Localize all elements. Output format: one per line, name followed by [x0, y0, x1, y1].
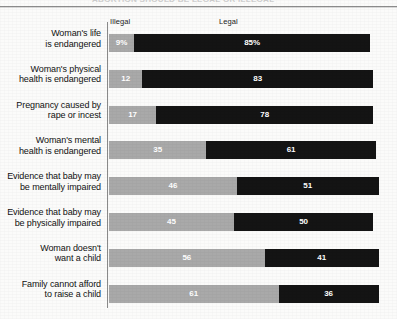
bar-row: Woman's mentalhealth is endangered3561 [0, 135, 397, 165]
stacked-bar: 6136 [109, 285, 379, 303]
stacked-bar: 4550 [109, 213, 373, 231]
category-label-line1: Woman's physical [0, 64, 101, 75]
bar-segment-legal: 83 [142, 70, 373, 88]
bar-row: Woman's lifeis endangered9%85% [0, 28, 397, 58]
category-label: Woman doesn'twant a child [0, 243, 101, 264]
stacked-bar: 9%85% [109, 34, 370, 52]
category-label-line2: is endangered [0, 39, 101, 50]
legend-label-illegal: Illegal [110, 17, 130, 26]
category-label: Woman's lifeis endangered [0, 28, 101, 49]
stacked-bar: 3561 [109, 141, 376, 159]
category-label-line2: to raise a child [0, 289, 101, 300]
bar-row: Evidence that baby maybe mentally impair… [0, 171, 397, 201]
category-label-line1: Woman doesn't [0, 243, 101, 254]
bar-segment-legal: 85% [134, 34, 370, 52]
bar-value-legal: 51 [237, 177, 379, 195]
bar-segment-illegal: 17 [109, 106, 156, 124]
bar-value-legal: 41 [265, 249, 379, 267]
bar-segment-illegal: 61 [109, 285, 279, 303]
bar-row: Family cannot affordto raise a child6136 [0, 279, 397, 309]
bar-segment-illegal: 35 [109, 141, 206, 159]
category-label-line1: Evidence that baby may [0, 171, 101, 182]
bar-segment-illegal: 45 [109, 213, 234, 231]
bar-segment-legal: 78 [156, 106, 373, 124]
bar-value-illegal: 9% [109, 34, 134, 52]
bar-value-legal: 78 [156, 106, 373, 124]
stacked-bar: 1283 [109, 70, 373, 88]
category-label-line2: be mentally impaired [0, 182, 101, 193]
bar-row: Evidence that baby maybe physically impa… [0, 207, 397, 237]
category-label-line1: Evidence that baby may [0, 207, 101, 218]
bar-value-illegal: 35 [109, 141, 206, 159]
stacked-bar: 1778 [109, 106, 373, 124]
category-label-line2: want a child [0, 253, 101, 264]
category-label: Pregnancy caused byrape or incest [0, 100, 101, 121]
bar-value-illegal: 61 [109, 285, 279, 303]
category-label-line2: health is endangered [0, 146, 101, 157]
category-label-line2: health is endangered [0, 74, 101, 85]
category-label: Woman's mentalhealth is endangered [0, 135, 101, 156]
category-label-line1: Family cannot afford [0, 279, 101, 290]
bar-value-legal: 36 [279, 285, 379, 303]
category-label-line1: Woman's life [0, 28, 101, 39]
category-label: Evidence that baby maybe mentally impair… [0, 171, 101, 192]
bar-value-illegal: 46 [109, 177, 237, 195]
legend-label-legal: Legal [219, 17, 238, 26]
bar-row: Pregnancy caused byrape or incest1778 [0, 100, 397, 130]
category-label-line1: Woman's mental [0, 135, 101, 146]
bar-value-legal: 83 [142, 70, 373, 88]
bar-segment-illegal: 9% [109, 34, 134, 52]
bleed-title-text: ABORTION SHOULD BE LEGAL OR ILLEGAL [92, 0, 274, 4]
bar-segment-legal: 61 [206, 141, 376, 159]
category-label-line2: be physically impaired [0, 218, 101, 229]
bar-segment-legal: 36 [279, 285, 379, 303]
bar-segment-legal: 51 [237, 177, 379, 195]
bar-segment-illegal: 12 [109, 70, 142, 88]
stacked-bar: 4651 [109, 177, 379, 195]
bar-value-illegal: 45 [109, 213, 234, 231]
stacked-bar-chart: Illegal Legal Woman's lifeis endangered9… [0, 8, 397, 319]
bar-row: Woman doesn'twant a child5641 [0, 243, 397, 273]
bar-value-legal: 85% [134, 34, 370, 52]
bar-segment-legal: 50 [234, 213, 373, 231]
stacked-bar: 5641 [109, 249, 379, 267]
category-label-line1: Pregnancy caused by [0, 100, 101, 111]
category-label: Evidence that baby maybe physically impa… [0, 207, 101, 228]
bar-segment-legal: 41 [265, 249, 379, 267]
bar-value-legal: 50 [234, 213, 373, 231]
bar-row: Woman's physicalhealth is endangered1283 [0, 64, 397, 94]
bar-value-illegal: 17 [109, 106, 156, 124]
bar-segment-illegal: 46 [109, 177, 237, 195]
bar-segment-illegal: 56 [109, 249, 265, 267]
category-label: Family cannot affordto raise a child [0, 279, 101, 300]
bar-value-illegal: 56 [109, 249, 265, 267]
category-label: Woman's physicalhealth is endangered [0, 64, 101, 85]
category-label-line2: rape or incest [0, 110, 101, 121]
bar-value-illegal: 12 [109, 70, 142, 88]
bar-value-legal: 61 [206, 141, 376, 159]
